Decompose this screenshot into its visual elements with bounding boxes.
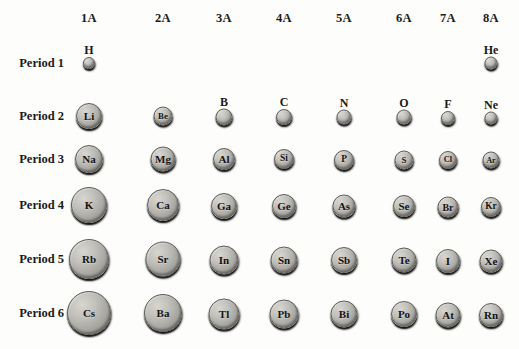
atom-se: Se xyxy=(393,195,415,217)
atom-tl: Tl xyxy=(209,299,240,330)
atom-symbol-o-label: O xyxy=(399,97,408,109)
atom-symbol-br: Br xyxy=(443,202,454,212)
atom-kr: Kr xyxy=(481,197,501,217)
atom-sr: Sr xyxy=(146,242,181,277)
atom-be: Be xyxy=(154,107,173,126)
atom-symbol-cs: Cs xyxy=(83,308,95,319)
atom-symbol-c-label: C xyxy=(280,96,289,108)
atom-symbol-rb: Rb xyxy=(82,254,96,265)
atom-symbol-ga: Ga xyxy=(217,201,231,212)
atom-h: H xyxy=(83,57,95,69)
atom-ne: Ne xyxy=(485,112,498,125)
atom-sb: Sb xyxy=(331,247,357,273)
atom-symbol-te: Te xyxy=(398,255,409,266)
atom-in: In xyxy=(210,246,239,275)
atom-symbol-na: Na xyxy=(82,154,95,165)
atom-symbol-i: I xyxy=(446,256,450,267)
atom-br: Br xyxy=(438,197,459,218)
atom-symbol-cl: Cl xyxy=(444,156,452,164)
atom-po: Po xyxy=(391,301,417,327)
atom-symbol-si: Si xyxy=(280,154,288,163)
atom-cs: Cs xyxy=(67,291,111,335)
group-header-6a: 6A xyxy=(396,11,412,26)
atom-ge: Ge xyxy=(272,194,296,218)
atom-symbol-rn: Rn xyxy=(484,310,498,321)
atom-symbol-tl: Tl xyxy=(219,309,229,320)
atom-symbol-ge: Ge xyxy=(277,201,290,212)
atom-f: F xyxy=(441,111,455,125)
period-label-2: Period 2 xyxy=(19,109,64,124)
atom-symbol-ar: Ar xyxy=(486,156,495,164)
atom-sn: Sn xyxy=(271,247,298,274)
atom-k: K xyxy=(71,187,107,223)
group-header-3a: 3A xyxy=(216,11,232,26)
atom-ar: Ar xyxy=(483,152,500,169)
atom-xe: Xe xyxy=(480,250,503,273)
atom-symbol-n-label: N xyxy=(340,97,349,109)
atom-symbol-he-label: He xyxy=(484,44,499,56)
atom-n: N xyxy=(337,110,352,125)
atom-symbol-k: K xyxy=(85,200,94,211)
atom-rb: Rb xyxy=(69,239,109,279)
atom-symbol-al: Al xyxy=(219,154,230,165)
period-label-4: Period 4 xyxy=(19,198,64,213)
atom-symbol-as: As xyxy=(338,201,350,212)
atom-symbol-sb: Sb xyxy=(338,255,350,266)
atom-c: C xyxy=(276,109,292,125)
atom-s: S xyxy=(395,151,414,170)
atom-mg: Mg xyxy=(151,147,176,172)
atom-cl: Cl xyxy=(439,151,457,169)
atom-symbol-se: Se xyxy=(399,201,410,212)
atom-symbol-sr: Sr xyxy=(158,254,169,265)
atom-symbol-kr: Kr xyxy=(485,202,496,211)
group-header-4a: 4A xyxy=(276,11,292,26)
atom-symbol-mg: Mg xyxy=(155,154,171,165)
atom-symbol-po: Po xyxy=(398,309,410,320)
atom-si: Si xyxy=(274,149,294,169)
atom-al: Al xyxy=(213,148,235,170)
group-header-1a: 1A xyxy=(81,11,97,26)
atom-o: O xyxy=(397,110,412,125)
group-header-2a: 2A xyxy=(155,11,171,26)
atom-symbol-f-label: F xyxy=(444,98,451,110)
group-header-8a: 8A xyxy=(483,11,499,26)
atom-symbol-bi: Bi xyxy=(339,309,349,320)
atom-b: B xyxy=(216,109,233,126)
group-header-7a: 7A xyxy=(440,11,456,26)
atom-li: Li xyxy=(76,103,102,129)
atom-symbol-p: P xyxy=(341,155,347,164)
atom-symbol-s: S xyxy=(402,156,407,165)
atom-symbol-sn: Sn xyxy=(278,255,290,266)
atom-ga: Ga xyxy=(211,193,237,219)
atom-symbol-xe: Xe xyxy=(485,256,498,267)
atom-as: As xyxy=(333,195,356,218)
atomic-radii-diagram: 1A2A3A4A5A6A7A8APeriod 1Period 2Period 3… xyxy=(0,0,519,349)
atom-p: P xyxy=(334,150,354,170)
atom-he: He xyxy=(485,57,498,70)
atom-symbol-ba: Ba xyxy=(157,308,170,319)
atom-na: Na xyxy=(75,145,103,173)
atom-symbol-h-label: H xyxy=(84,44,93,56)
atom-ca: Ca xyxy=(147,189,179,221)
atom-symbol-ca: Ca xyxy=(156,200,169,211)
atom-symbol-li: Li xyxy=(84,111,94,122)
atom-pb: Pb xyxy=(270,300,299,329)
atom-ba: Ba xyxy=(144,294,182,332)
atom-symbol-b-label: B xyxy=(220,96,228,108)
group-header-5a: 5A xyxy=(336,11,352,26)
atom-i: I xyxy=(436,249,460,273)
period-label-5: Period 5 xyxy=(19,252,64,267)
period-label-3: Period 3 xyxy=(19,152,64,167)
atom-symbol-at: At xyxy=(442,310,454,321)
atom-symbol-in: In xyxy=(219,255,229,266)
atom-symbol-be: Be xyxy=(158,112,168,121)
atom-symbol-ne-label: Ne xyxy=(484,99,498,111)
atom-rn: Rn xyxy=(479,303,503,327)
atom-bi: Bi xyxy=(331,301,358,328)
period-label-1: Period 1 xyxy=(19,56,64,71)
atom-symbol-pb: Pb xyxy=(278,309,291,320)
period-label-6: Period 6 xyxy=(19,306,64,321)
atom-at: At xyxy=(436,303,461,328)
atom-te: Te xyxy=(392,248,417,273)
